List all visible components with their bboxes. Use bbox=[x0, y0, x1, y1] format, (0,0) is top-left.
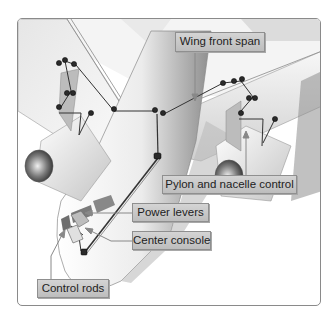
label-wing-front-span: Wing front span bbox=[175, 32, 265, 52]
label-power-levers: Power levers bbox=[132, 203, 209, 222]
label-control-rods: Control rods bbox=[37, 279, 109, 298]
label-center-console: Center console bbox=[132, 231, 211, 250]
label-pylon-and-nacelle-control: Pylon and nacelle control bbox=[162, 175, 297, 194]
aircraft-illustration bbox=[18, 19, 321, 306]
diagram-frame bbox=[17, 18, 321, 306]
